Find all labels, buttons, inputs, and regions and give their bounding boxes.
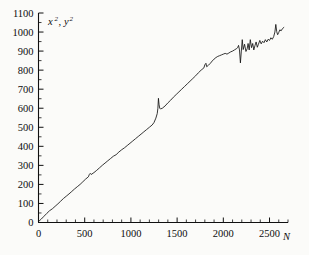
y-axis-title-y-base: y — [63, 16, 69, 27]
y-tick-label: 800 — [18, 65, 34, 76]
y-tick-label: 0 — [28, 217, 33, 228]
y-tick-label: 500 — [18, 122, 34, 133]
y-tick-label: 600 — [18, 103, 34, 114]
y-tick-label: 700 — [18, 84, 34, 95]
x-tick-label: 1000 — [120, 228, 141, 239]
y-tick-label: 200 — [18, 179, 34, 190]
x-axis-title: N — [282, 231, 291, 242]
x-tick-label: 2000 — [213, 228, 234, 239]
chart-background — [0, 0, 309, 255]
figure-container: 010020030040050060070080090010001100 050… — [0, 0, 309, 255]
y-axis-title-x-base: x — [47, 16, 53, 27]
chart-plot: 010020030040050060070080090010001100 050… — [0, 0, 309, 255]
x-tick-label: 1500 — [167, 228, 188, 239]
y-axis-title-y-exponent: 2 — [70, 15, 74, 23]
x-tick-label: 2500 — [259, 228, 280, 239]
y-tick-label: 100 — [18, 198, 34, 209]
y-tick-label: 1100 — [13, 8, 34, 19]
y-tick-label: 300 — [18, 160, 34, 171]
y-tick-label: 900 — [18, 46, 34, 57]
x-tick-label: 500 — [77, 228, 93, 239]
x-tick-label: 0 — [36, 228, 41, 239]
y-axis-title-separator: , — [59, 16, 62, 27]
y-tick-label: 400 — [18, 141, 34, 152]
y-tick-label: 1000 — [13, 27, 34, 38]
